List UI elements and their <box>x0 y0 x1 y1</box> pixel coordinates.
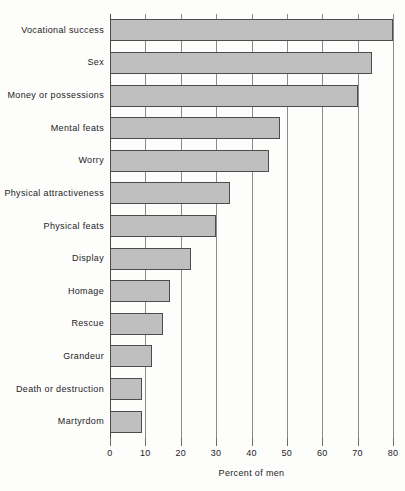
x-tick-mark-60 <box>322 438 323 446</box>
bar-display <box>110 248 191 270</box>
bar-worry <box>110 150 269 172</box>
x-tick-label-10: 10 <box>140 448 151 458</box>
category-label-vocational-success: Vocational success <box>0 25 104 36</box>
x-tick-label-50: 50 <box>282 448 293 458</box>
x-tick-mark-50 <box>287 438 288 446</box>
x-tick-label-80: 80 <box>388 448 399 458</box>
bar-money-or-possessions <box>110 85 358 107</box>
category-label-homage: Homage <box>0 286 104 297</box>
bar-sex <box>110 52 372 74</box>
category-label-death-or-destruction: Death or destruction <box>0 384 104 395</box>
bar-mental-feats <box>110 117 280 139</box>
category-label-physical-feats: Physical feats <box>0 221 104 232</box>
category-axis-labels: Vocational successSexMoney or possession… <box>0 14 104 438</box>
bar-homage <box>110 280 170 302</box>
bar-death-or-destruction <box>110 378 142 400</box>
x-tick-mark-0 <box>110 438 111 446</box>
bar-physical-attractiveness <box>110 182 230 204</box>
bar-vocational-success <box>110 19 393 41</box>
x-axis-title: Percent of men <box>110 468 393 478</box>
x-axis: 01020304050607080 <box>110 438 393 468</box>
x-tick-label-0: 0 <box>107 448 112 458</box>
gridline-80 <box>393 14 394 438</box>
category-label-display: Display <box>0 253 104 264</box>
category-label-worry: Worry <box>0 155 104 166</box>
category-label-grandeur: Grandeur <box>0 351 104 362</box>
bar-physical-feats <box>110 215 216 237</box>
category-label-physical-attractiveness: Physical attractiveness <box>0 188 104 199</box>
x-tick-mark-30 <box>216 438 217 446</box>
x-tick-label-70: 70 <box>352 448 363 458</box>
bar-grandeur <box>110 345 152 367</box>
x-tick-label-60: 60 <box>317 448 328 458</box>
x-tick-mark-80 <box>393 438 394 446</box>
category-label-sex: Sex <box>0 57 104 68</box>
x-tick-label-20: 20 <box>175 448 186 458</box>
x-tick-label-30: 30 <box>211 448 222 458</box>
x-tick-mark-20 <box>181 438 182 446</box>
x-tick-mark-70 <box>358 438 359 446</box>
x-tick-mark-40 <box>252 438 253 446</box>
x-tick-label-40: 40 <box>246 448 257 458</box>
bar-martyrdom <box>110 411 142 433</box>
category-label-money-or-possessions: Money or possessions <box>0 90 104 101</box>
category-label-martyrdom: Martyrdom <box>0 416 104 427</box>
bars-layer <box>110 14 393 438</box>
category-label-rescue: Rescue <box>0 318 104 329</box>
bar-rescue <box>110 313 163 335</box>
category-label-mental-feats: Mental feats <box>0 123 104 134</box>
x-tick-mark-10 <box>145 438 146 446</box>
bar-chart: Vocational successSexMoney or possession… <box>0 0 405 491</box>
